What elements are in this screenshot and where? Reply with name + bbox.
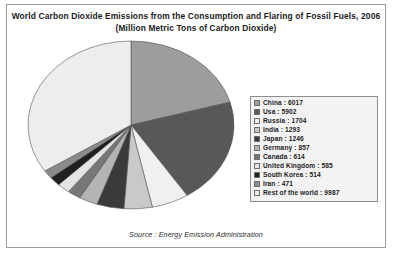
- legend-item[interactable]: South Korea : 514: [254, 171, 374, 180]
- legend-swatch-icon: [254, 190, 260, 196]
- legend-item[interactable]: United Kingdom : 585: [254, 162, 374, 171]
- plot-area: China : 6017Usa : 5902Russia : 1704India…: [7, 33, 387, 221]
- legend-item[interactable]: Japan : 1246: [254, 135, 374, 144]
- legend-item[interactable]: Iran : 471: [254, 180, 374, 189]
- legend-label: India : 1293: [263, 126, 300, 134]
- legend-rows: China : 6017Usa : 5902Russia : 1704India…: [254, 99, 374, 197]
- source-caption: Source : Energy Emission Administration: [7, 230, 385, 239]
- legend-label: Rest of the world : 9987: [263, 189, 339, 197]
- legend-label: Usa : 5902: [263, 108, 297, 116]
- legend-label: Iran : 471: [263, 180, 293, 188]
- pie-svg: [23, 37, 239, 217]
- chart-title-block: World Carbon Dioxide Emissions from the …: [7, 10, 385, 35]
- pie-slices: [28, 41, 234, 209]
- legend-swatch-icon: [254, 172, 260, 178]
- legend-swatch-icon: [254, 100, 260, 106]
- legend-swatch-icon: [254, 163, 260, 169]
- legend-item[interactable]: Germany : 857: [254, 144, 374, 153]
- chart-title: World Carbon Dioxide Emissions from the …: [7, 10, 385, 22]
- legend-swatch-icon: [254, 145, 260, 151]
- pie-chart: [23, 37, 239, 217]
- legend-swatch-icon: [254, 127, 260, 133]
- legend-item[interactable]: India : 1293: [254, 126, 374, 135]
- legend-item[interactable]: Canada : 614: [254, 153, 374, 162]
- legend-item[interactable]: China : 6017: [254, 99, 374, 108]
- legend-label: Germany : 857: [263, 144, 310, 152]
- legend-label: Japan : 1246: [263, 135, 304, 143]
- chart-frame: World Carbon Dioxide Emissions from the …: [6, 4, 386, 248]
- legend-swatch-icon: [254, 109, 260, 115]
- legend-label: United Kingdom : 585: [263, 162, 333, 170]
- legend-label: China : 6017: [263, 99, 303, 107]
- legend-item[interactable]: Usa : 5902: [254, 108, 374, 117]
- legend-swatch-icon: [254, 136, 260, 142]
- legend-item[interactable]: Rest of the world : 9987: [254, 189, 374, 198]
- legend-label: South Korea : 514: [263, 171, 321, 179]
- legend-item[interactable]: Russia : 1704: [254, 117, 374, 126]
- legend-swatch-icon: [254, 118, 260, 124]
- legend-swatch-icon: [254, 181, 260, 187]
- legend-label: Russia : 1704: [263, 117, 306, 125]
- chart-legend: China : 6017Usa : 5902Russia : 1704India…: [250, 96, 378, 202]
- legend-label: Canada : 614: [263, 153, 305, 161]
- legend-swatch-icon: [254, 154, 260, 160]
